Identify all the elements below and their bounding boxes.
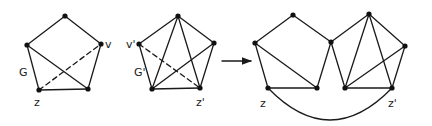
- edge-l-z: [255, 43, 268, 88]
- edge-bl-zp: [152, 88, 200, 89]
- edge-z-br: [39, 89, 88, 90]
- vertex-z: [36, 87, 41, 92]
- vertex-r: [402, 43, 407, 48]
- vertex-top: [175, 13, 180, 18]
- vertex-zp: [197, 85, 202, 90]
- vertex-m: [328, 39, 333, 44]
- label-v-prime: v': [126, 38, 136, 51]
- vertex-br: [85, 86, 90, 91]
- vertex-v: [98, 41, 103, 46]
- edge-v-br: [88, 44, 101, 89]
- edge-left-br: [27, 45, 88, 89]
- vertex-bl: [149, 86, 154, 91]
- edge-t1-m: [293, 15, 331, 42]
- vertex-right: [211, 40, 216, 45]
- edge-m-t2: [331, 14, 369, 42]
- vertex-top: [62, 13, 67, 18]
- edge-top-zp: [178, 16, 200, 88]
- vertex-left: [24, 42, 29, 47]
- edge-m-b2: [331, 42, 345, 88]
- vertex-b2: [342, 85, 347, 90]
- vertex-b1: [314, 85, 319, 90]
- edge-arc-z-zprime: [268, 88, 392, 120]
- edge-top-right: [178, 16, 214, 43]
- edge-t2-zp: [369, 14, 392, 88]
- edge-top-v: [65, 16, 101, 44]
- edges-layer: [27, 14, 405, 120]
- vertex-t1: [290, 12, 295, 17]
- vertex-t2: [366, 11, 371, 16]
- edge-r-zp: [392, 46, 405, 88]
- edge-l-t1: [255, 15, 293, 43]
- vertex-z: [265, 85, 270, 90]
- label-z-prime: z': [196, 96, 205, 109]
- edge-top-bl: [152, 16, 178, 89]
- edge-top-left: [27, 16, 65, 45]
- label-G-prime: G': [134, 66, 146, 79]
- vertex-zp: [389, 85, 394, 90]
- edge-z-v: [39, 44, 101, 90]
- edge-b2-r: [345, 46, 405, 88]
- vertex-l: [252, 40, 257, 45]
- vertex-vp: [136, 41, 141, 46]
- edge-t2-b2: [345, 14, 369, 88]
- edge-bl-right: [152, 43, 214, 89]
- edge-top-vp: [139, 16, 178, 44]
- label-v: v: [105, 38, 112, 51]
- edge-b1-m: [317, 42, 331, 88]
- label-merged-z-prime: z': [388, 97, 397, 110]
- label-G: G: [19, 66, 28, 79]
- label-merged-z: z: [260, 97, 266, 110]
- graph-construction-diagram: vGzv'G'z'zz': [0, 0, 432, 126]
- edge-vp-zp: [139, 44, 200, 88]
- edge-l-b1: [255, 43, 317, 88]
- edge-right-zp: [200, 43, 214, 88]
- label-z: z: [34, 96, 40, 109]
- vertices-layer: [24, 11, 407, 92]
